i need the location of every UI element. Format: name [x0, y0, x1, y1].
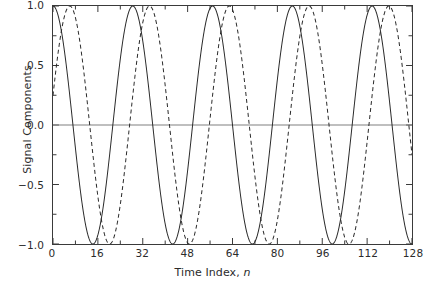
y-tick-label: 1.0: [0, 0, 44, 11]
x-tick-label: 16: [90, 248, 104, 259]
x-tick-label: 32: [135, 248, 149, 259]
y-tick-label: −1.0: [0, 240, 44, 251]
x-axis-label-symbol: n: [243, 266, 250, 279]
x-tick-label: 80: [271, 248, 285, 259]
plot-svg: [53, 6, 412, 244]
x-axis-label: Time Index, n: [0, 266, 425, 279]
x-tick-label: 48: [181, 248, 195, 259]
signal-components-chart: 0163248648096112128 1.00.50.0−0.5−1.0 Ti…: [0, 0, 425, 286]
x-tick-label: 112: [358, 248, 378, 259]
x-tick-label: 64: [226, 248, 240, 259]
y-axis-label: Signal Components: [21, 35, 34, 205]
plot-area: [52, 5, 413, 245]
x-tick-label: 128: [403, 248, 423, 259]
x-axis-label-text: Time Index,: [175, 266, 244, 279]
x-tick-label: 96: [316, 248, 330, 259]
x-tick-label: 0: [49, 248, 56, 259]
